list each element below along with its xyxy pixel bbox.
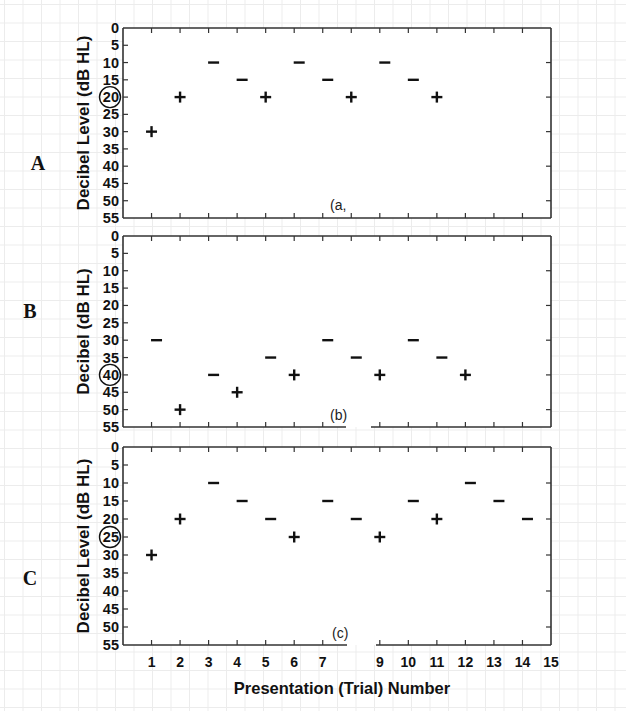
y-tick-label: 45 (103, 601, 119, 617)
panel-a: 0510152025303540455055Decibel Level (dB … (31, 20, 551, 226)
y-tick-label: 10 (103, 475, 119, 491)
y-tick-label: 5 (111, 245, 119, 261)
y-tick-label: 30 (103, 547, 119, 563)
x-tick-label: 6 (290, 654, 298, 670)
y-tick-label: 10 (103, 55, 119, 71)
panel-sublabel: (a, (330, 197, 346, 213)
x-tick-label: 12 (458, 654, 474, 670)
x-tick-label: 13 (486, 654, 502, 670)
y-tick-label: 50 (103, 619, 119, 635)
panel-b: 0510152025303540455055Decibel (dB HL)B(b… (23, 228, 551, 435)
y-axis-title: Decibel Level (dB HL) (74, 36, 93, 211)
y-tick-label: 50 (103, 193, 119, 209)
y-tick-label: 40 (103, 367, 119, 383)
y-tick-label: 15 (103, 280, 119, 296)
y-tick-label: 15 (103, 493, 119, 509)
x-tick-label: 2 (176, 654, 184, 670)
y-tick-label: 30 (103, 332, 119, 348)
x-axis-title: Presentation (Trial) Number (234, 679, 451, 697)
audiogram-figure: 0510152025303540455055Decibel Level (dB … (0, 0, 626, 711)
y-tick-label: 20 (103, 89, 119, 105)
x-tick-label: 15 (543, 654, 559, 670)
y-axis-title: Decibel Level (dB HL) (74, 459, 93, 634)
y-tick-label: 45 (103, 175, 119, 191)
y-tick-label: 45 (103, 384, 119, 400)
y-tick-label: 0 (111, 439, 119, 455)
x-tick-label: 10 (401, 654, 417, 670)
y-tick-label: 5 (111, 37, 119, 53)
y-tick-label: 25 (103, 315, 119, 331)
y-tick-label: 30 (103, 124, 119, 140)
y-tick-label: 35 (103, 141, 119, 157)
y-tick-label: 55 (103, 210, 119, 226)
y-tick-label: 40 (103, 583, 119, 599)
x-tick-label: 5 (262, 654, 270, 670)
y-tick-label: 35 (103, 565, 119, 581)
y-tick-label: 25 (103, 529, 119, 545)
y-tick-label: 0 (111, 20, 119, 36)
y-tick-label: 55 (103, 637, 119, 653)
x-axis-labels: 12345679101112131415Presentation (Trial)… (148, 654, 559, 697)
panel-letter: C (23, 567, 37, 589)
y-tick-label: 35 (103, 350, 119, 366)
y-tick-label: 5 (111, 457, 119, 473)
y-tick-label: 0 (111, 228, 119, 244)
panel-c: 0510152025303540455055Decibel Level (dB … (23, 439, 551, 653)
y-tick-label: 20 (103, 511, 119, 527)
x-tick-label: 3 (205, 654, 213, 670)
y-tick-label: 10 (103, 263, 119, 279)
x-tick-label: 4 (233, 654, 241, 670)
x-tick-label: 9 (376, 654, 384, 670)
y-tick-label: 20 (103, 297, 119, 313)
y-tick-label: 15 (103, 72, 119, 88)
x-tick-label: 1 (148, 654, 156, 670)
x-tick-label: 7 (319, 654, 327, 670)
panel-letter: A (31, 152, 46, 174)
y-axis-title: Decibel (dB HL) (74, 268, 93, 395)
panel-sublabel: (c) (332, 625, 348, 641)
panel-letter: B (23, 300, 36, 322)
x-tick-label: 14 (515, 654, 531, 670)
y-tick-label: 50 (103, 402, 119, 418)
y-tick-label: 55 (103, 419, 119, 435)
y-tick-label: 40 (103, 158, 119, 174)
x-tick-label: 11 (429, 654, 444, 670)
y-tick-label: 25 (103, 106, 119, 122)
panel-sublabel: (b) (330, 407, 347, 423)
